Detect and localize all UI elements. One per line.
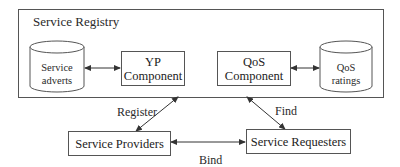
- service-providers-label: Service Providers: [75, 137, 164, 151]
- bind-edge-label: Bind: [199, 153, 222, 167]
- qos-component-line1: QoS: [243, 55, 265, 69]
- qos-ratings-line2: ratings: [320, 74, 372, 87]
- service-adverts-line1: Service: [30, 61, 84, 74]
- service-providers-box: Service Providers: [68, 131, 171, 156]
- service-adverts-label: Service adverts: [30, 61, 84, 87]
- registry-title: Service Registry: [33, 14, 119, 30]
- qos-ratings-line1: QoS: [320, 61, 372, 74]
- service-adverts-line2: adverts: [30, 74, 84, 87]
- qos-ratings-label: QoS ratings: [320, 61, 372, 87]
- yp-component-line1: YP: [145, 55, 161, 69]
- find-edge-label: Find: [275, 104, 297, 119]
- yp-component-line2: Component: [124, 69, 182, 83]
- yp-component-box: YP Component: [121, 51, 185, 86]
- service-requesters-label: Service Requesters: [251, 135, 346, 149]
- qos-component-line2: Component: [225, 69, 283, 83]
- service-requesters-box: Service Requesters: [246, 129, 351, 154]
- qos-component-box: QoS Component: [217, 51, 291, 86]
- register-edge-label: Register: [117, 105, 157, 120]
